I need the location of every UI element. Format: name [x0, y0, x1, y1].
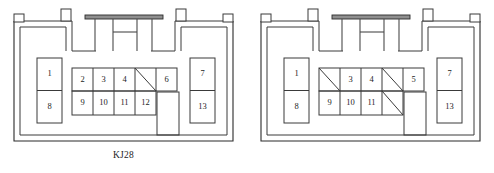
grid-cell-label-b3-kj28: 12: [141, 97, 150, 107]
notch-pier-left-kj29: [308, 9, 318, 21]
notch-pier-right-kj29: [423, 9, 433, 21]
room-label-13-kj29: 13: [445, 101, 454, 111]
grid-cell-label-t1-kj29: 3: [348, 74, 352, 84]
diagonal-cell-top4-kj28: [135, 68, 156, 91]
plan-caption-kj28: KJ28: [0, 150, 247, 160]
floor-plan-kj29: 1 8 7 13: [247, 0, 494, 150]
top-wall-inner-right-kj28: [181, 27, 227, 51]
room-label-13-kj28: 13: [198, 101, 207, 111]
diagonal-cell-top3-kj29: [382, 68, 403, 91]
top-wall-inner-left-kj29: [267, 27, 313, 51]
grid-cell-label-t4-kj28: 6: [164, 74, 168, 84]
diagonal-cell-top0-kj29: [319, 68, 340, 91]
plan-drawing-kj28: 1 8 7 13 2 3: [0, 0, 247, 150]
room-label-1-kj29: 1: [294, 68, 298, 78]
figure-root: 1 8 7 13 2 3: [0, 0, 494, 173]
notch-top-right-kj29: [470, 14, 480, 22]
grid-cell-label-t2-kj28: 4: [122, 74, 127, 84]
passage-shaft-kj28: [157, 92, 179, 135]
room-label-7-kj28: 7: [200, 68, 204, 78]
top-wall-right-kj28: [151, 21, 233, 51]
grid-cell-label-b1-kj28: 10: [99, 97, 108, 107]
notch-pier-right-kj28: [176, 9, 186, 21]
top-wall-right-kj29: [398, 21, 480, 51]
diagonal-cell-bottom3-kj29: [382, 91, 403, 115]
plan-drawing-kj29: 1 8 7 13: [247, 0, 494, 150]
grid-cell-label-t4-kj29: 5: [411, 74, 415, 84]
top-wall-inner-left-kj28: [20, 27, 66, 51]
grid-cell-label-t0-kj28: 2: [80, 74, 84, 84]
central-beam-kj29: [332, 15, 410, 19]
room-label-7-kj29: 7: [447, 68, 451, 78]
grid-cell-label-b2-kj28: 11: [120, 97, 128, 107]
room-label-8-kj28: 8: [47, 101, 51, 111]
top-wall-left-kj29: [261, 21, 343, 51]
grid-cell-label-b1-kj29: 10: [346, 97, 355, 107]
grid-cell-label-b2-kj29: 11: [367, 97, 375, 107]
room-label-8-kj29: 8: [294, 101, 298, 111]
floor-plan-kj28: 1 8 7 13 2 3: [0, 0, 247, 150]
grid-cell-label-t1-kj28: 3: [101, 74, 105, 84]
notch-top-left-kj28: [14, 14, 24, 22]
notch-pier-left-kj28: [61, 9, 71, 21]
top-wall-left-kj28: [14, 21, 96, 51]
notch-top-left-kj29: [261, 14, 271, 22]
top-wall-inner-right-kj29: [428, 27, 474, 51]
grid-cell-label-b0-kj29: 9: [327, 97, 331, 107]
central-beam-kj28: [85, 15, 163, 19]
passage-shaft-kj29: [404, 92, 426, 135]
notch-top-right-kj28: [223, 14, 233, 22]
grid-cell-label-b0-kj28: 9: [80, 97, 84, 107]
grid-cell-label-t2-kj29: 4: [369, 74, 374, 84]
room-label-1-kj28: 1: [47, 68, 51, 78]
